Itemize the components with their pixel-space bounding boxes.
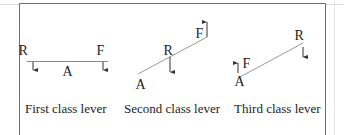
effort-label: F bbox=[243, 56, 251, 71]
lever-caption: First class lever bbox=[25, 101, 107, 116]
lever-caption: Second class lever bbox=[124, 101, 221, 116]
resistance-label: R bbox=[19, 43, 29, 58]
effort-label: F bbox=[196, 26, 204, 41]
fulcrum-label: A bbox=[235, 74, 246, 89]
second-class-lever: F R A Second class lever bbox=[124, 22, 221, 116]
lever-classes-diagram: R F A First class lever F R A Second cla… bbox=[0, 0, 344, 135]
fulcrum-label: A bbox=[63, 64, 74, 79]
resistance-label: R bbox=[295, 28, 305, 43]
effort-label: F bbox=[97, 43, 105, 58]
resistance-label: R bbox=[164, 43, 174, 58]
third-class-lever: R F A Third class lever bbox=[234, 28, 321, 116]
first-class-lever: R F A First class lever bbox=[19, 43, 109, 116]
fulcrum-label: A bbox=[136, 77, 147, 92]
lever-caption: Third class lever bbox=[234, 101, 321, 116]
